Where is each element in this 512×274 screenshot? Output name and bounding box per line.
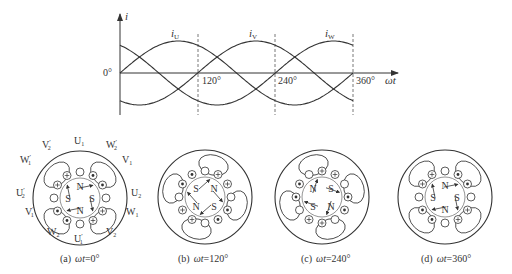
pole-top-right-s: S: [328, 183, 334, 194]
tick-0: 0°: [103, 67, 112, 78]
flux-loop: [196, 152, 230, 179]
x-axis-label: ωt: [385, 74, 397, 86]
label-v2p: V′2: [42, 138, 51, 151]
flux-arrow-icon: [199, 180, 210, 189]
label-iw: iW: [325, 27, 335, 41]
tick-240: 240°: [278, 75, 297, 86]
slot-empty-icon: [467, 193, 475, 201]
pole-bottom-right-n: N: [327, 201, 334, 212]
label-u2p: U′2: [16, 186, 25, 199]
flux-loop: [179, 215, 213, 242]
label-v1: V1: [122, 154, 132, 166]
waveform-chart: i ωt 0° 120° 240° 360° iU iV iW: [103, 10, 398, 115]
slot-empty-icon: [102, 194, 110, 202]
pole-top-n: N: [76, 181, 83, 192]
captions: (a)ωt=0° (b)ωt=120° (c)ωt=240° (d)ωt=360…: [60, 253, 471, 265]
stator-panel-d: NSNS: [398, 150, 492, 244]
y-axis-label: i: [125, 10, 128, 22]
slot-empty-icon: [441, 219, 449, 227]
rotor-circle: [302, 177, 342, 217]
slot-empty-icon: [227, 193, 235, 201]
caption-c: (c)ωt=240°: [301, 253, 351, 265]
pole-left-s: S: [65, 193, 71, 204]
label-iu: iU: [171, 27, 179, 41]
stator-outer-ring: [158, 150, 252, 244]
slot-empty-icon: [341, 180, 349, 188]
slot-empty-icon: [201, 167, 209, 175]
tick-120: 120°: [202, 75, 221, 86]
label-iv: iV: [249, 27, 257, 41]
stator-diagrams: NSNSSNSNNSNSNSNS: [33, 150, 492, 245]
slot-empty-icon: [175, 193, 183, 201]
flux-loop: [313, 215, 347, 242]
label-w2: W2: [47, 226, 59, 238]
stator-outer-ring: [275, 150, 369, 244]
flux-loop: [223, 188, 250, 222]
pole-right-s: S: [89, 193, 95, 204]
rotor-circle: [185, 177, 225, 217]
pole-bottom-n: N: [441, 204, 448, 215]
slot-empty-icon: [441, 167, 449, 175]
three-phase-current-diagram: i ωt 0° 120° 240° 360° iU iV iW NSNSSNSN…: [0, 0, 512, 274]
slot-empty-icon: [331, 216, 339, 224]
pole-right-s: S: [454, 192, 460, 203]
label-w1p: W′1: [20, 153, 31, 166]
slot-empty-icon: [76, 168, 84, 176]
flux-loop: [160, 171, 187, 205]
label-w1: W1: [126, 206, 138, 218]
caption-a: (a)ωt=0°: [60, 253, 100, 265]
label-w2p: W′2: [106, 138, 117, 151]
pole-top-left-n: N: [309, 183, 316, 194]
stator-outer-ring: [398, 150, 492, 244]
label-v1p: V′1: [25, 205, 34, 218]
tick-360: 360°: [356, 75, 375, 86]
pole-bottom-left-s: S: [310, 201, 316, 212]
slot-empty-icon: [305, 171, 313, 179]
label-u1: U1: [74, 135, 84, 147]
pole-left-s: S: [430, 192, 436, 203]
label-v2: V2: [106, 226, 116, 238]
stator-panel-b: SNSN: [158, 150, 252, 244]
pole-top-n: N: [441, 180, 448, 191]
slot-empty-icon: [76, 220, 84, 228]
caption-d: (d)ωt=360°: [421, 253, 471, 265]
flux-loop: [340, 171, 367, 205]
slot-empty-icon: [415, 193, 423, 201]
label-u1p: U′1: [74, 232, 83, 245]
pole-top-left-s: S: [193, 183, 199, 194]
flux-loop: [296, 152, 330, 179]
pole-bottom-left-n: N: [192, 201, 199, 212]
stator-panel-c: NSNS: [275, 150, 369, 244]
slot-empty-icon: [296, 206, 304, 214]
pole-top-right-n: N: [210, 183, 217, 194]
slot-empty-icon: [201, 219, 209, 227]
label-u2: U2: [131, 187, 141, 199]
flux-loop: [277, 188, 304, 222]
pole-bottom-n: N: [76, 205, 83, 216]
caption-b: (b)ωt=120°: [178, 253, 228, 265]
flux-arrow-icon: [200, 205, 211, 214]
slot-empty-icon: [50, 194, 58, 202]
pole-bottom-right-s: S: [211, 201, 217, 212]
